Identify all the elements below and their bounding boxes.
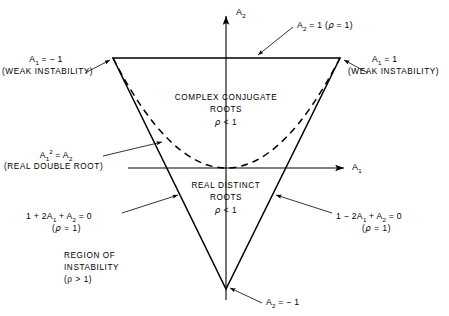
region-of-instability: REGION OF INSTABILITY (ρ > 1): [64, 250, 119, 286]
leader-a2-equals-1: [258, 27, 293, 55]
leader-a2-equals-minus-1: [230, 288, 262, 303]
region-instability-line1: REGION OF: [64, 250, 119, 262]
annotation-a2-equals-minus-1: A2 = − 1: [266, 296, 299, 311]
region-rdr-line1: REAL DISTINCT: [192, 180, 261, 192]
leader-parabola: [103, 142, 162, 156]
stability-region-diagram: A2 A1 A2 = 1 (ρ = 1) A1 = − 1 (WEAK INST…: [0, 0, 449, 316]
annotation-a2-equals-1: A2 = 1 (ρ = 1): [297, 19, 353, 34]
leader-right-boundary: [276, 195, 332, 213]
annotation-right-boundary-rho: (ρ = 1): [362, 222, 391, 235]
leader-left-boundary: [122, 195, 178, 213]
annotation-left-boundary-rho: (ρ = 1): [52, 222, 81, 235]
region-instability-line2: INSTABILITY: [64, 262, 119, 274]
region-ccr-line3: ρ < 1: [175, 116, 277, 129]
y-axis-label: A2: [236, 6, 246, 21]
region-rdr-line2: ROOTS: [192, 192, 261, 204]
x-axis-label: A1: [352, 161, 362, 176]
region-real-distinct-roots: REAL DISTINCT ROOTS ρ < 1: [192, 180, 261, 217]
region-complex-conjugate-roots: COMPLEX CONJUGATE ROOTS ρ < 1: [175, 92, 277, 129]
annotation-weak-instability-left: (WEAK INSTABILITY): [2, 66, 93, 78]
annotation-weak-instability-right: (WEAK INSTABILITY): [348, 66, 439, 78]
region-ccr-line2: ROOTS: [175, 104, 277, 116]
annotation-real-double-root: (REAL DOUBLE ROOT): [4, 161, 103, 173]
region-rdr-line3: ρ < 1: [192, 204, 261, 217]
region-ccr-line1: COMPLEX CONJUGATE: [175, 92, 277, 104]
region-instability-line3: (ρ > 1): [64, 274, 119, 286]
